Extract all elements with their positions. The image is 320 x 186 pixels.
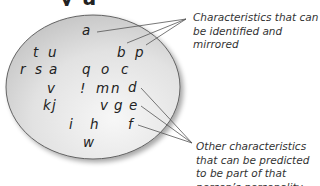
- caption-identified-mirrored: Characteristics that can be identified a…: [193, 11, 320, 52]
- characteristic-letter: e: [129, 99, 137, 113]
- characteristic-letter: b: [117, 46, 126, 60]
- pointer-line-mirrored-p: [146, 19, 186, 45]
- characteristic-letter: d: [128, 81, 137, 95]
- characteristic-letter: r: [20, 63, 26, 77]
- characteristic-letter: n: [111, 82, 120, 96]
- characteristic-letter: v: [47, 82, 55, 96]
- characteristic-letter: q: [82, 63, 91, 77]
- characteristic-letter: p: [135, 46, 144, 60]
- characteristic-letter: j: [52, 99, 56, 113]
- characteristic-letter: k: [43, 99, 51, 113]
- characteristic-letter: c: [121, 63, 128, 77]
- characteristic-letter: s: [35, 63, 42, 77]
- characteristic-letter: v: [100, 99, 108, 113]
- title-partial: y u: [60, 0, 180, 6]
- characteristic-letter: h: [90, 118, 99, 132]
- characteristic-letter: a: [49, 63, 57, 77]
- characteristic-letter: u: [48, 46, 57, 60]
- characteristic-letter: t: [33, 46, 38, 60]
- characteristic-letter: !: [80, 82, 85, 96]
- characteristic-letter: i: [69, 118, 73, 132]
- caption-predicted-characteristics: Other characteristics that can be predic…: [196, 140, 320, 186]
- characteristic-letter: f: [128, 118, 133, 132]
- characteristic-letter: g: [114, 99, 123, 113]
- characteristic-letter: w: [83, 136, 94, 150]
- characteristic-letter: o: [101, 63, 109, 77]
- characteristic-letter: m: [96, 82, 109, 96]
- characteristic-letter: a: [82, 24, 90, 38]
